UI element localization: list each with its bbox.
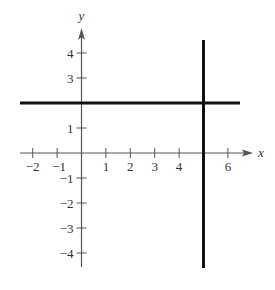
y-tick-label: 4 [67,46,74,61]
y-tick-label: −3 [60,221,74,236]
coordinate-plane: x −2−112346 y −4−3−2−1134 [0,0,275,290]
y-axis-label: y [77,8,85,23]
x-tick-label: 6 [225,159,232,174]
x-tick-label: 4 [176,159,183,174]
y-tick-label: 1 [67,121,74,136]
x-ticks: −2−112346 [26,148,232,174]
x-tick-label: 1 [103,159,110,174]
y-tick-label: 3 [67,71,74,86]
x-axis-label: x [257,145,264,160]
x-tick-label: 3 [151,159,158,174]
y-tick-label: −1 [60,171,74,186]
y-tick-label: −4 [60,246,74,261]
x-tick-label: −2 [26,159,40,174]
x-axis: x −2−112346 [20,145,264,174]
y-tick-label: −2 [60,196,74,211]
x-tick-label: 2 [127,159,134,174]
y-axis: y −4−3−2−1134 [60,8,87,267]
